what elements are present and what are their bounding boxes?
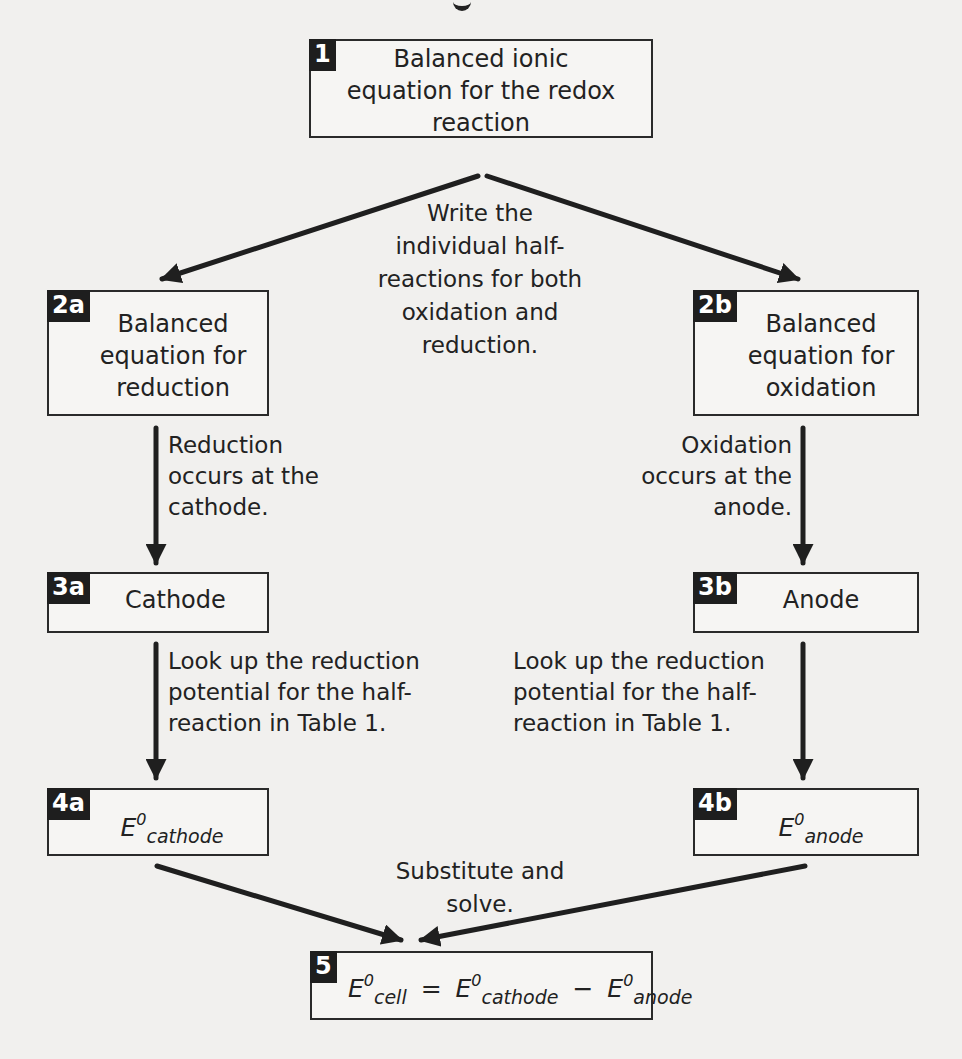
- edge-label-lookup-anode: Look up the reduction potential for the …: [513, 646, 793, 739]
- node-5-cell-potential-equation: 5 E0cell = E0cathode − E0anode: [310, 951, 653, 1020]
- node-text: Anode: [725, 584, 917, 616]
- edge-label-substitute-and-solve: Substitute and solve.: [340, 855, 620, 921]
- node-text: Cathode: [49, 584, 226, 616]
- node-2a-reduction-equation: 2a Balanced equation for reduction: [47, 290, 269, 416]
- node-text: Balanced equation for reduction: [79, 308, 267, 404]
- edge-label-lookup-cathode: Look up the reduction potential for the …: [168, 646, 468, 739]
- step-badge: 5: [310, 951, 337, 983]
- e-cathode-symbol: E0cathode: [77, 804, 267, 852]
- node-3a-cathode: 3a Cathode: [47, 572, 269, 633]
- edge-label-oxidation-at-anode: Oxidation occurs at the anode.: [600, 430, 792, 523]
- node-4b-e-anode: 4b E0anode: [693, 788, 919, 856]
- e-anode-symbol: E0anode: [725, 804, 917, 852]
- node-3b-anode: 3b Anode: [693, 572, 919, 633]
- node-4a-e-cathode: 4a E0cathode: [47, 788, 269, 856]
- node-2b-oxidation-equation: 2b Balanced equation for oxidation: [693, 290, 919, 416]
- cell-potential-formula: E0cell = E0cathode − E0anode: [348, 965, 651, 1013]
- node-text: Balanced ionic equation for the redox re…: [311, 43, 651, 139]
- node-text: Balanced equation for oxidation: [725, 308, 917, 404]
- node-1-balanced-ionic-equation: 1 Balanced ionic equation for the redox …: [309, 39, 653, 138]
- edge-label-reduction-at-cathode: Reduction occurs at the cathode.: [168, 430, 348, 523]
- edge-label-write-half-reactions: Write the individual half- reactions for…: [330, 197, 630, 362]
